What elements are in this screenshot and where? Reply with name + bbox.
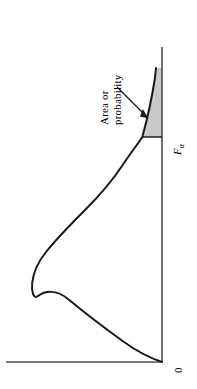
critical-value-subscript: α bbox=[177, 144, 186, 148]
annotation-label-line1: Area or bbox=[98, 90, 110, 125]
critical-value-label: Fα bbox=[171, 144, 186, 155]
annotation-label-line2: probability bbox=[111, 75, 124, 125]
distribution-plot bbox=[0, 0, 197, 389]
annotation-label: Area or probability bbox=[98, 75, 123, 125]
critical-value-symbol: F bbox=[171, 148, 183, 155]
origin-label: 0 bbox=[172, 368, 185, 374]
f-distribution-figure: Area or probability Fα 0 bbox=[0, 0, 197, 389]
